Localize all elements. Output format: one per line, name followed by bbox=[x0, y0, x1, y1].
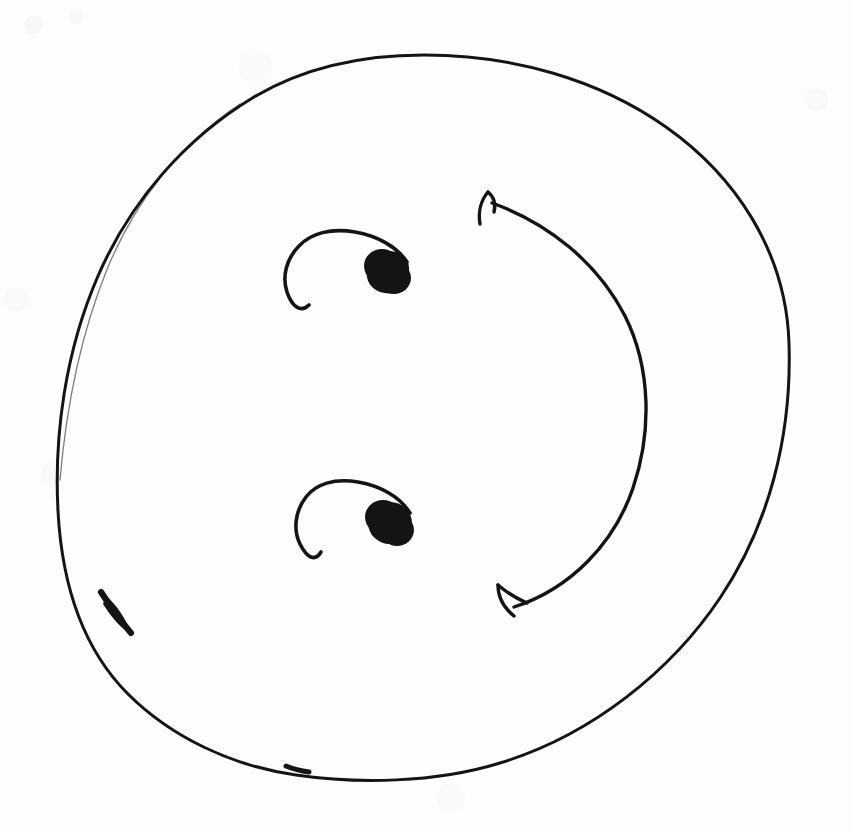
upper-vortex-spiral bbox=[285, 231, 411, 309]
figure-canvas bbox=[0, 0, 851, 831]
rotation-arc-arrow bbox=[479, 192, 646, 616]
arrowhead-top-icon bbox=[479, 192, 488, 224]
ink-drawing bbox=[0, 0, 851, 831]
lower-vortex-spiral bbox=[296, 481, 414, 558]
disk-boundary bbox=[57, 55, 789, 780]
